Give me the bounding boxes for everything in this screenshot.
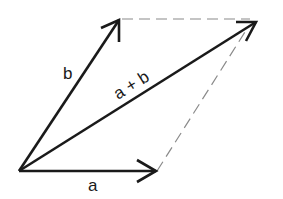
vector-b-arrow [19,20,119,171]
vector-parallelogram-diagram: a b a + b [0,0,283,199]
label-b: b [63,64,72,83]
vector-a-plus-b-arrow [19,22,256,171]
label-a: a [88,176,98,195]
label-a-plus-b: a + b [110,67,153,103]
dashed-edge-right [157,32,245,171]
